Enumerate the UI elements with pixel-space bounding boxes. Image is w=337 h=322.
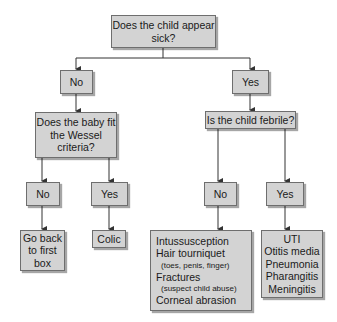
root-question-box: Does the child appear sick?	[111, 15, 216, 48]
afebrile-cause-note: (toes, penis, finger)	[156, 260, 229, 271]
afebrile-cause: Hair tourniquet	[156, 247, 225, 260]
go-back-box: Go back to first box	[20, 230, 65, 271]
febrile-cause: Pharangitis	[266, 270, 319, 283]
yes-label: Yes	[242, 76, 259, 89]
go-back-line2: to first	[28, 244, 57, 257]
afebrile-cause: Fractures	[156, 271, 200, 284]
febrile-no-box: No	[204, 182, 237, 206]
afebrile-cause-note: (suspect child abuse)	[156, 283, 237, 294]
go-back-line3: box	[34, 257, 51, 270]
febrile-cause: Meningitis	[268, 283, 315, 296]
wessel-yes-box: Yes	[91, 182, 128, 206]
wessel-line3: criteria?	[57, 141, 94, 154]
root-question-text: Does the child appear sick?	[112, 19, 215, 44]
wessel-no-box: No	[26, 182, 60, 206]
febrile-question-text: Is the child febrile?	[207, 114, 295, 127]
afebrile-cause: Intussusception	[156, 235, 229, 248]
febrile-cause: Pneumonia	[265, 258, 318, 271]
no-label: No	[70, 76, 83, 89]
wessel-criteria-box: Does the baby fit the Wessel criteria?	[35, 112, 117, 158]
febrile-yes-label: Yes	[276, 188, 293, 201]
febrile-causes-box: UTI Otitis media Pneumonia Pharangitis M…	[261, 230, 323, 298]
colic-box: Colic	[92, 230, 126, 248]
afebrile-cause: Corneal abrasion	[156, 294, 236, 307]
go-back-line1: Go back	[23, 232, 62, 245]
wessel-line2: the Wessel	[50, 129, 102, 142]
wessel-line1: Does the baby fit	[37, 116, 116, 129]
febrile-cause: UTI	[284, 233, 301, 246]
yes-sick-box: Yes	[232, 70, 269, 94]
colic-label: Colic	[97, 233, 120, 246]
febrile-question-box: Is the child febrile?	[205, 111, 296, 129]
febrile-yes-box: Yes	[266, 182, 304, 206]
febrile-no-label: No	[214, 188, 227, 201]
wessel-no-label: No	[36, 188, 49, 201]
wessel-yes-label: Yes	[101, 188, 118, 201]
afebrile-causes-box: Intussusception Hair tourniquet (toes, p…	[150, 230, 252, 311]
no-sick-box: No	[60, 70, 93, 94]
febrile-cause: Otitis media	[264, 245, 319, 258]
